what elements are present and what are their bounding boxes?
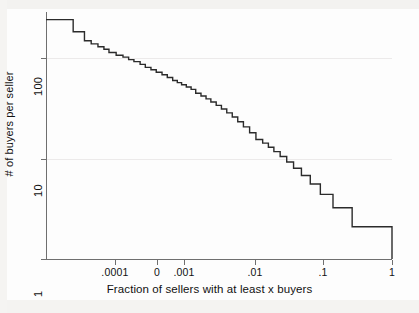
x-tick-mark-001 [184,260,185,265]
x-tick-mark-0001 [115,260,116,265]
gridline-10 [46,159,392,160]
y-tick-label-10: 10 [32,159,44,197]
x-tick-label-0: 0 [154,266,160,278]
x-tick-label-01: .01 [247,266,262,278]
x-tick-mark-1 [392,260,393,265]
x-axis-title: Fraction of sellers with at least x buye… [0,283,419,295]
x-tick-mark-0 [157,260,158,265]
x-tick-label-001: .001 [173,266,194,278]
scan-artifact-bottom [0,300,419,313]
x-tick-label-1: 1 [389,266,395,278]
y-axis-title: # of buyers per seller [2,0,16,247]
y-axis-title-text: # of buyers per seller [3,71,15,176]
scan-artifact-top [0,0,419,9]
plot-area [46,12,392,259]
x-tick-mark-1dec [323,260,324,265]
chart-figure: 100 10 1 .0001 0 .001 .01 .1 1 # of buye… [0,0,419,313]
x-tick-mark-01 [255,260,256,265]
x-axis-line [46,259,392,260]
y-tick-label-100: 100 [32,58,44,96]
gridline-100 [46,58,392,59]
x-tick-label-1dec: .1 [318,266,327,278]
x-tick-label-0001: .0001 [101,266,128,278]
y-axis-line [46,12,47,260]
